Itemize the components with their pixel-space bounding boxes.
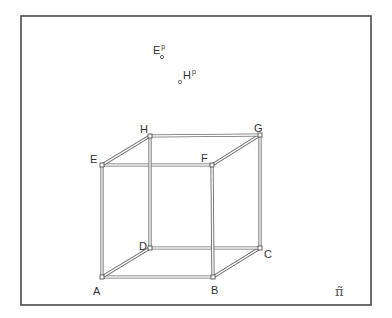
edge-BC [213,248,260,277]
projected-label-Hp: Hp [183,68,196,81]
projected-point-Hp [178,80,181,83]
vertex-label-F: F [201,152,208,164]
cube-diagram: ABCDEFGH EpHp π̃ [0,0,392,318]
edge-GH [150,135,260,136]
vertex-H [148,134,152,138]
vertex-C [258,246,262,250]
vertex-label-A: A [93,285,101,297]
picture-plane-frame [21,16,371,305]
vertex-label-E: E [90,153,97,165]
edge-BF [212,165,213,277]
edge-DA [102,248,150,277]
vertex-label-C: C [264,248,272,260]
vertex-label-G: G [254,122,263,134]
edge-HE [102,136,150,165]
vertex-label-B: B [211,284,218,296]
vertex-label-H: H [140,123,148,135]
vertex-A [100,275,104,279]
vertex-label-D: D [139,240,147,252]
vertex-labels: ABCDEFGH [90,122,272,297]
vertex-E [100,163,104,167]
vertex-D [148,246,152,250]
cube-edges [102,135,260,277]
projected-label-Ep: Ep [153,43,165,56]
plane-label: π̃ [335,284,344,299]
edge-FG [212,135,260,165]
cube-vertices [100,133,262,279]
vertex-F [210,163,214,167]
vertex-B [211,275,215,279]
projected-points: EpHp [153,43,196,84]
projected-point-Ep [160,55,163,58]
